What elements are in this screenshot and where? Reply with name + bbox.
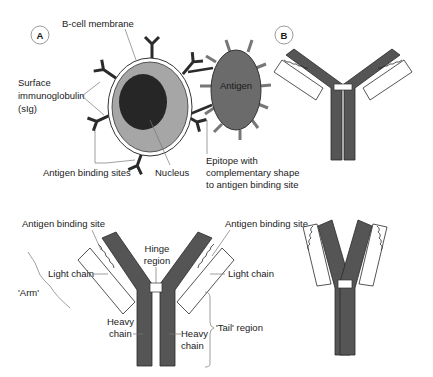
panel-d xyxy=(303,220,387,355)
epitope-label-1: Epitope with xyxy=(206,155,258,166)
antibody-diagram: A xyxy=(0,0,433,377)
heavy-chain-left-label-1: Heavy xyxy=(107,316,134,327)
hinge-region xyxy=(338,280,352,288)
antibody-b xyxy=(274,49,412,160)
epitope-label-2: complementary shape xyxy=(206,167,299,178)
surface-ig-label-2: immunoglobulin xyxy=(18,90,85,101)
panel-a: A xyxy=(18,18,299,190)
surface-ig-label-1: Surface xyxy=(18,77,51,88)
antigen: Antigen xyxy=(200,40,271,140)
hinge-label-1: Hinge xyxy=(145,243,170,254)
antigen-binding-site-left-label: Antigen binding site xyxy=(22,218,105,229)
heavy-chain-left-label-2: chain xyxy=(109,328,132,339)
nucleus-label: Nucleus xyxy=(155,167,190,178)
heavy-chain xyxy=(286,49,342,160)
b-cell-membrane-label: B-cell membrane xyxy=(62,18,134,29)
antigen-binding-site-right-label: Antigen binding site xyxy=(225,218,308,229)
antigen-binding-sites-label: Antigen binding sites xyxy=(43,167,131,178)
nucleus xyxy=(119,74,167,130)
antigen-label: Antigen xyxy=(220,80,252,91)
panel-b-marker: B xyxy=(275,26,293,44)
heavy-chain xyxy=(344,49,400,160)
epitope-label-3: to antigen binding site xyxy=(206,179,298,190)
hinge-region xyxy=(150,283,162,292)
heavy-chain-right-label-1: Heavy xyxy=(181,328,208,339)
light-chain-right-label: Light chain xyxy=(228,268,274,279)
light-chain-left-label: Light chain xyxy=(48,268,94,279)
hinge-label-2: region xyxy=(144,255,170,266)
tail-region-label: 'Tail' region xyxy=(216,322,263,333)
hinge-region xyxy=(334,84,352,90)
panel-a-marker: A xyxy=(31,26,49,44)
heavy-chain-right-label-2: chain xyxy=(181,340,204,351)
svg-text:B: B xyxy=(281,30,288,41)
b-cell xyxy=(108,58,192,156)
panel-c: Antigen binding site Antigen binding sit… xyxy=(18,218,308,367)
surface-ig-label-3: (sIg) xyxy=(18,103,37,114)
svg-text:A: A xyxy=(37,30,44,41)
arm-label: 'Arm' xyxy=(18,287,39,298)
panel-b: B xyxy=(274,26,412,160)
